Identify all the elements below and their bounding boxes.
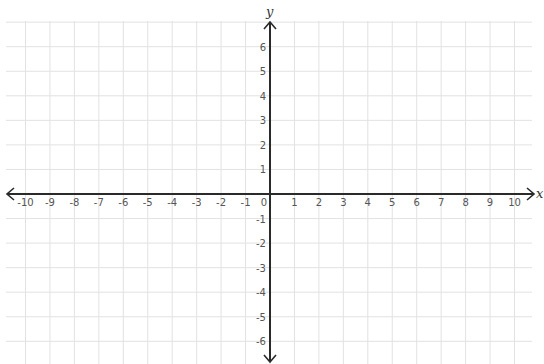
x-axis-label: x xyxy=(536,186,544,201)
x-tick-label: -8 xyxy=(69,197,79,208)
x-tick-label: -9 xyxy=(45,197,55,208)
x-tick-label: 4 xyxy=(365,197,371,208)
x-tick-label: 6 xyxy=(414,197,420,208)
x-tick-label: 0 xyxy=(261,197,267,208)
y-tick-label: -5 xyxy=(256,312,266,323)
x-tick-label: -4 xyxy=(167,197,177,208)
x-tick-label: 7 xyxy=(438,197,444,208)
x-tick-label: 2 xyxy=(316,197,322,208)
y-tick-label: 3 xyxy=(260,115,266,126)
y-tick-label: 6 xyxy=(260,42,266,53)
x-tick-label: -2 xyxy=(216,197,226,208)
x-tick-label: -7 xyxy=(94,197,104,208)
y-tick-label: -1 xyxy=(256,214,266,225)
x-tick-label: 10 xyxy=(508,197,521,208)
x-tick-label: -3 xyxy=(192,197,202,208)
x-tick-label: -1 xyxy=(241,197,251,208)
x-tick-label: 8 xyxy=(462,197,468,208)
y-tick-label: 2 xyxy=(260,140,266,151)
y-axis-label: y xyxy=(265,4,274,19)
x-tick-label: 9 xyxy=(487,197,493,208)
x-tick-label: -6 xyxy=(118,197,128,208)
coordinate-plane: x y -10-9-8-7-6-5-4-3-2-1012345678910 65… xyxy=(0,0,544,364)
y-tick-label: -3 xyxy=(256,263,266,274)
x-tick-label: 5 xyxy=(389,197,395,208)
y-tick-label: -6 xyxy=(256,336,266,347)
y-tick-label: 1 xyxy=(260,164,266,175)
y-tick-label: 5 xyxy=(260,66,266,77)
x-tick-label: 3 xyxy=(340,197,346,208)
y-tick-label: -4 xyxy=(256,287,266,298)
axes: x y xyxy=(7,4,544,362)
y-tick-label: -2 xyxy=(256,238,266,249)
x-tick-label: 1 xyxy=(291,197,297,208)
x-tick-label: -5 xyxy=(143,197,153,208)
x-tick-label: -10 xyxy=(17,197,33,208)
y-tick-label: 4 xyxy=(260,91,266,102)
